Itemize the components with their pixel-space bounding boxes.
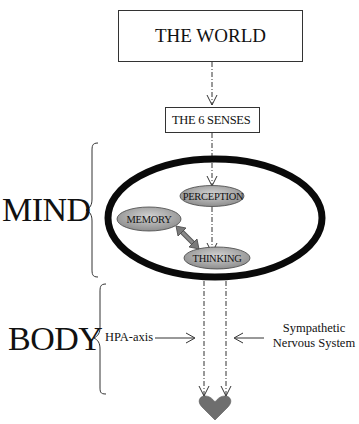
senses-box: THE 6 SENSES bbox=[165, 107, 260, 133]
body-label: BODY bbox=[8, 322, 102, 356]
world-label: THE WORLD bbox=[155, 25, 266, 47]
hpa-axis-label: HPA-axis bbox=[105, 330, 153, 345]
sympathetic-arrow bbox=[234, 333, 264, 343]
heart-icon bbox=[199, 396, 231, 420]
sympathetic-label-line1: Sympathetic bbox=[268, 321, 359, 336]
mind-label: MIND bbox=[2, 193, 91, 227]
memory-thinking-double-arrow bbox=[176, 226, 199, 249]
sympathetic-label-line2: Nervous System bbox=[268, 336, 359, 351]
sympathetic-label: Sympathetic Nervous System bbox=[268, 321, 359, 351]
thinking-label: THINKING bbox=[193, 253, 242, 264]
memory-node: MEMORY bbox=[117, 211, 181, 227]
world-box: THE WORLD bbox=[118, 10, 303, 62]
mind-to-heart-arrows bbox=[199, 281, 231, 396]
memory-label: MEMORY bbox=[127, 214, 172, 225]
hpa-arrow bbox=[155, 333, 195, 343]
thinking-node: THINKING bbox=[184, 250, 250, 266]
world-to-senses-arrow bbox=[207, 62, 217, 105]
senses-label: THE 6 SENSES bbox=[172, 113, 250, 128]
perception-node: PERCEPTION bbox=[178, 188, 248, 204]
perception-to-thinking-arrow bbox=[207, 207, 217, 253]
perception-label: PERCEPTION bbox=[183, 191, 244, 202]
